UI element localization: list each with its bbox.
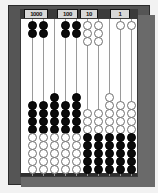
abacus-bead-r5-bottom-7[interactable] [83, 165, 92, 174]
abacus-bead-r4-top-1[interactable] [72, 29, 81, 38]
abacus-bead-r1-bottom-8[interactable] [39, 165, 48, 174]
abacus-bead-r3-top-1[interactable] [61, 29, 70, 38]
abacus-bead-r5-top-2[interactable] [83, 37, 92, 46]
abacus-bead-r7-bottom-9[interactable] [105, 165, 114, 174]
abacus-bead-r8-bottom-8[interactable] [116, 165, 125, 174]
abacus-bead-r0-top-1[interactable] [28, 29, 37, 38]
abacus-bead-r0-bottom-8[interactable] [28, 165, 37, 174]
abacus-bead-r1-top-1[interactable] [39, 29, 48, 38]
abacus-bead-r8-top-0[interactable] [116, 21, 125, 30]
abacus-screenshot: 1000100101 [0, 0, 158, 193]
abacus-bead-r9-top-0[interactable] [127, 21, 136, 30]
abacus-bead-r3-bottom-8[interactable] [61, 165, 70, 174]
abacus-bead-r6-bottom-7[interactable] [94, 165, 103, 174]
abacus-bead-r9-bottom-8[interactable] [127, 165, 136, 174]
abacus-bead-r6-top-2[interactable] [94, 37, 103, 46]
abacus-bead-field [20, 18, 138, 177]
abacus-bead-r2-bottom-9[interactable] [50, 165, 59, 174]
abacus-bead-r4-bottom-9[interactable] [72, 165, 81, 174]
